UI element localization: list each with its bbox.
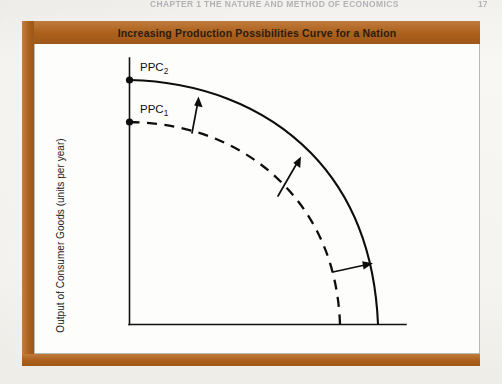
figure-frame-left-bar bbox=[22, 21, 34, 366]
ppc1-y-intercept-dot bbox=[126, 118, 133, 125]
figure-frame-bottom-bar bbox=[22, 354, 480, 366]
ppc1-curve bbox=[130, 122, 341, 324]
figure-title-bar: Increasing Production Possibilities Curv… bbox=[34, 21, 480, 44]
y-axis-title: Output of Consumer Goods (units per year… bbox=[55, 121, 66, 351]
ppc-plot: PPC2 PPC1 bbox=[34, 44, 480, 354]
ppc2-y-intercept-dot bbox=[126, 76, 133, 83]
figure-title: Increasing Production Possibilities Curv… bbox=[118, 27, 397, 39]
ppc1-label: PPC1 bbox=[140, 103, 169, 118]
shift-arrow-lower bbox=[333, 261, 373, 272]
running-head-page-number: 17 bbox=[478, 0, 487, 8]
running-head: CHAPTER 1 THE NATURE AND METHOD OF ECONO… bbox=[150, 0, 490, 8]
ppc2-label: PPC2 bbox=[140, 61, 169, 76]
chart-panel: PPC2 PPC1 Output of Consumer Goods (unit… bbox=[34, 44, 480, 354]
shift-arrow-upper bbox=[192, 97, 203, 134]
